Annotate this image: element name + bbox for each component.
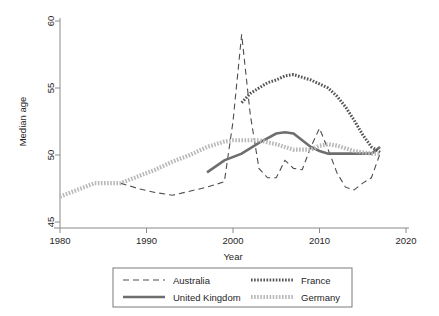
legend-label-australia: Australia [173,275,211,286]
data-series-group [60,34,380,196]
legend-label-germany: Germany [301,292,340,303]
x-tick-label: 1990 [136,235,157,246]
legend-label-france: France [301,275,331,286]
x-axis-ticks: 19801990200020102020 [49,228,416,246]
x-tick-label: 1980 [49,235,70,246]
y-tick-label: 50 [45,150,56,161]
legend-label-united-kingdom: United Kingdom [173,292,241,303]
chart-container: 60555045 19801990200020102020 Median age… [0,0,439,316]
y-tick-label: 60 [45,16,56,27]
y-tick-label: 45 [45,217,56,228]
axis-group: 60555045 19801990200020102020 [45,16,417,246]
y-axis-ticks: 60555045 [45,16,60,228]
x-tick-label: 2010 [309,235,330,246]
median-age-line-chart: 60555045 19801990200020102020 Median age… [0,0,439,316]
series-line-australia [121,34,381,195]
series-line-germany [60,140,380,196]
y-tick-label: 55 [45,83,56,94]
x-tick-label: 2020 [395,235,416,246]
x-tick-label: 2000 [222,235,243,246]
y-axis-title: Median age [17,97,28,147]
x-axis-title: Year [223,251,242,262]
chart-legend: AustraliaFranceUnited KingdomGermany [113,268,352,307]
